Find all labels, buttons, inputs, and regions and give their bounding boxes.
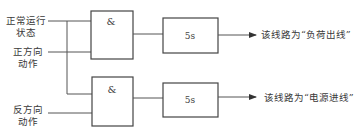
input-label-forward-action: 正方向 动作 (10, 46, 46, 70)
input-label-line: 正方向 (10, 46, 46, 58)
output-label-power-incoming: 该线路为“电源进线” (264, 92, 354, 104)
output-label-load-outgoing: 该线路为“负荷出线” (261, 29, 351, 41)
input-label-line: 动作 (10, 116, 46, 128)
input-label-reverse-action: 反方向 动作 (10, 104, 46, 128)
input-label-line: 正常运行 (4, 15, 48, 27)
wire-branch-normal-run (67, 21, 92, 94)
input-label-line: 状态 (4, 27, 48, 39)
and-gate-1-symbol: & (107, 16, 116, 27)
and-gate-2-symbol: & (108, 84, 117, 95)
input-label-normal-run-state: 正常运行 状态 (4, 15, 48, 39)
delay-1-label: 5s (185, 31, 195, 41)
input-label-line: 动作 (10, 58, 46, 70)
input-label-line: 反方向 (10, 104, 46, 116)
delay-2-label: 5s (185, 95, 195, 105)
